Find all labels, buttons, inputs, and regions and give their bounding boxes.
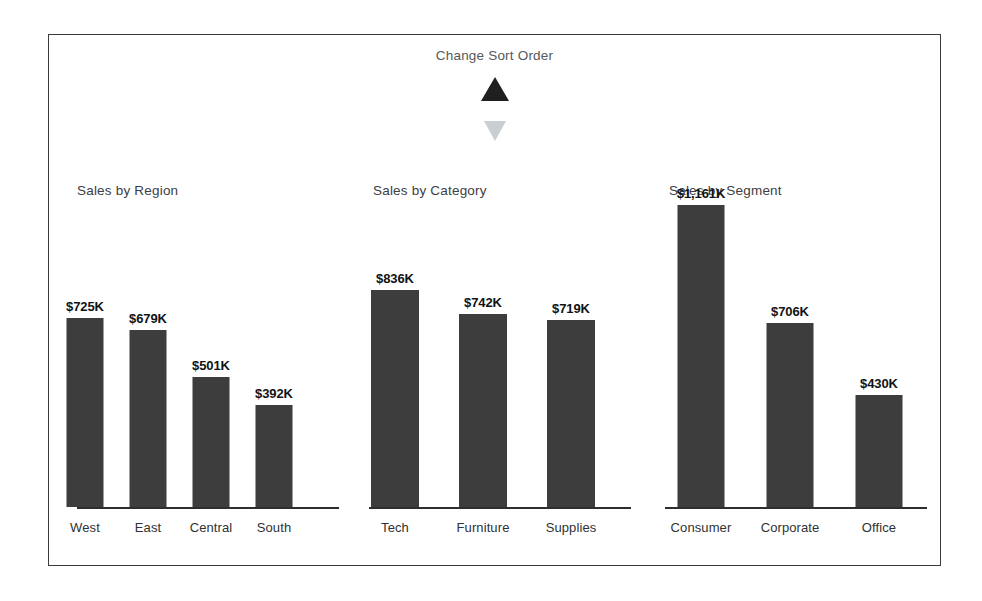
bar-slot: $725K [67,205,104,507]
bar-slot: $501K [193,205,230,507]
x-axis-label: Consumer [671,520,732,535]
x-axis-label: East [135,520,161,535]
x-axis-line [77,507,339,509]
x-axis-label: South [257,520,291,535]
x-axis-labels: ConsumerCorporateOffice [657,513,947,535]
bar-slot: $430K [856,205,903,507]
bar-group: $725K$679K$501K$392K [65,205,355,507]
bar-value-label: $430K [860,376,898,391]
x-axis-line [665,507,927,509]
chart-sales-by-category: Sales by Category $836K$742K$719K TechFu… [361,183,651,567]
bar-south[interactable] [256,405,293,507]
chart-title: Sales by Region [77,183,178,198]
bar-consumer[interactable] [678,205,725,507]
x-axis-label: Supplies [546,520,597,535]
bar-east[interactable] [130,330,167,507]
bar-slot: $742K [459,205,507,507]
x-axis-label: Office [862,520,896,535]
chart-sales-by-segment: Sales by Segment $1,161K$706K$430K Consu… [657,183,947,567]
bar-group: $836K$742K$719K [361,205,651,507]
charts-row: Sales by Region $725K$679K$501K$392K Wes… [49,183,940,567]
bar-value-label: $836K [376,271,414,286]
x-axis-labels: WestEastCentralSouth [65,513,355,535]
sort-descending-button[interactable] [49,121,940,141]
bar-slot: $679K [130,205,167,507]
bar-value-label: $501K [192,358,230,373]
triangle-down-icon [484,121,506,141]
x-axis-labels: TechFurnitureSupplies [361,513,651,535]
bar-value-label: $392K [255,386,293,401]
bar-supplies[interactable] [547,320,595,507]
bar-slot: $1,161K [678,205,725,507]
bar-value-label: $706K [771,304,809,319]
bar-value-label: $742K [464,295,502,310]
sort-ascending-button[interactable] [49,77,940,101]
plot-area: $836K$742K$719K TechFurnitureSupplies [361,205,651,543]
bar-slot: $719K [547,205,595,507]
bar-value-label: $725K [66,299,104,314]
bar-value-label: $719K [552,301,590,316]
bar-west[interactable] [67,318,104,507]
x-axis-label: Tech [381,520,409,535]
x-axis-label: Corporate [761,520,820,535]
sort-order-title: Change Sort Order [49,47,940,65]
bar-corporate[interactable] [767,323,814,507]
chart-sales-by-region: Sales by Region $725K$679K$501K$392K Wes… [65,183,355,567]
bar-office[interactable] [856,395,903,507]
plot-area: $725K$679K$501K$392K WestEastCentralSout… [65,205,355,543]
bar-value-label: $679K [129,311,167,326]
bar-furniture[interactable] [459,314,507,507]
bar-group: $1,161K$706K$430K [657,205,947,507]
sort-order-control: Change Sort Order [49,35,940,141]
bar-slot: $836K [371,205,419,507]
plot-area: $1,161K$706K$430K ConsumerCorporateOffic… [657,205,947,543]
dashboard-frame: Change Sort Order Sales by Region $725K$… [48,34,941,566]
x-axis-line [369,507,631,509]
bar-tech[interactable] [371,290,419,507]
triangle-up-icon [481,77,509,101]
bar-slot: $706K [767,205,814,507]
x-axis-label: West [70,520,100,535]
x-axis-label: Central [190,520,233,535]
x-axis-label: Furniture [457,520,510,535]
bar-slot: $392K [256,205,293,507]
bar-value-label: $1,161K [677,186,725,201]
chart-title: Sales by Category [373,183,487,198]
bar-central[interactable] [193,377,230,507]
